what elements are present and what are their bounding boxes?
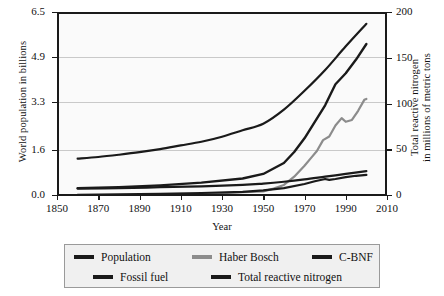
x-tick <box>57 195 58 200</box>
x-tick-label: 1970 <box>282 202 328 214</box>
legend-label: Haber Bosch <box>219 251 279 263</box>
legend-swatch <box>192 255 212 258</box>
plot-area <box>57 12 387 195</box>
legend-item[interactable]: Fossil fuel <box>93 271 211 283</box>
y-tick-label-left: 1.6 <box>5 143 45 155</box>
legend-swatch <box>211 275 231 278</box>
x-tick <box>346 195 347 200</box>
legend-label: Population <box>101 251 151 263</box>
y-tick-right <box>387 149 392 150</box>
legend-row: PopulationHaber BoschC-BNF <box>65 247 388 267</box>
y-tick-label-right: 200 <box>396 5 436 17</box>
x-tick-label: 1930 <box>199 202 245 214</box>
legend-swatch <box>312 255 332 258</box>
legend-row: Fossil fuelTotal reactive nitrogen <box>65 267 407 287</box>
x-tick <box>387 195 388 200</box>
legend-swatch <box>93 275 113 278</box>
y-tick-label-left: 3.3 <box>5 95 45 107</box>
legend-label: Fossil fuel <box>120 271 168 283</box>
y-tick-label-right: 150 <box>396 51 436 63</box>
y-tick-right <box>387 58 392 59</box>
x-tick-label: 1990 <box>323 202 369 214</box>
legend-item[interactable]: C-BNF <box>312 251 382 263</box>
x-tick-label: 1910 <box>158 202 204 214</box>
series-line <box>78 44 367 188</box>
legend-item[interactable]: Haber Bosch <box>192 251 312 263</box>
y-tick-left <box>52 150 57 151</box>
plot-border-left <box>57 12 59 195</box>
y-tick-left <box>52 57 57 58</box>
x-tick-label: 1950 <box>240 202 286 214</box>
x-tick <box>222 195 223 200</box>
x-tick <box>181 195 182 200</box>
series-lines <box>57 12 387 195</box>
legend-label: Total reactive nitrogen <box>238 271 342 283</box>
y-tick-label-left: 0.0 <box>5 188 45 200</box>
x-tick-label: 1890 <box>117 202 163 214</box>
plot-border-top <box>57 12 387 14</box>
legend-item[interactable]: Total reactive nitrogen <box>211 271 401 283</box>
y-tick-left <box>52 12 57 13</box>
x-tick-label: 1870 <box>75 202 121 214</box>
y-tick-left <box>52 102 57 103</box>
x-tick <box>140 195 141 200</box>
x-axis-title: Year <box>0 221 444 232</box>
x-tick <box>263 195 264 200</box>
x-tick-label: 1850 <box>34 202 80 214</box>
y-tick-label-left: 4.9 <box>5 50 45 62</box>
y-tick-label-right: 50 <box>396 142 436 154</box>
series-line <box>187 99 366 195</box>
y-tick-label-right: 100 <box>396 97 436 109</box>
x-tick <box>305 195 306 200</box>
x-tick <box>98 195 99 200</box>
x-tick-label: 2010 <box>364 202 410 214</box>
legend-swatch <box>74 255 94 258</box>
y-tick-right <box>387 12 392 13</box>
y-tick-label-left: 6.5 <box>5 5 45 17</box>
chart-legend: PopulationHaber BoschC-BNF Fossil fuelTo… <box>64 244 380 288</box>
legend-label: C-BNF <box>339 251 373 263</box>
series-line <box>78 24 367 159</box>
y-tick-label-right: 0 <box>396 188 436 200</box>
legend-item[interactable]: Population <box>74 251 192 263</box>
y-tick-right <box>387 104 392 105</box>
chart-figure: World population in billions Total react… <box>0 0 444 296</box>
